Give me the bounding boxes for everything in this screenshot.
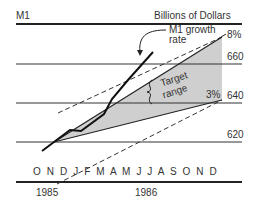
annotation-3pct: 3% [206,89,220,100]
annotation-m1-rate: rate [169,34,186,45]
y-axis-units: Billions of Dollars [154,10,231,21]
x-axis-month-labels: O N D J F M A M J J A S O N D [33,166,218,177]
x-axis-year-1986: 1986 [135,187,157,198]
m1-annotation-arrow [140,30,166,52]
tick-label-640: 640 [227,90,244,101]
x-axis-year-1985: 1985 [36,187,58,198]
arrow-head-icon [137,50,143,56]
tick-label-620: 620 [227,129,244,140]
chart-title: M1 [16,10,30,21]
annotation-8pct: 8% [227,29,241,40]
tick-label-660: 660 [227,51,244,62]
